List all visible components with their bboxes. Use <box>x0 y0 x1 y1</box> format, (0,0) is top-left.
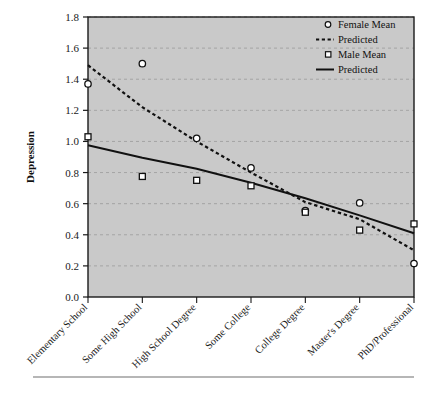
open-circle-marker <box>325 22 331 28</box>
female-mean-point <box>139 60 145 66</box>
x-tick-label: Master's Degree <box>305 301 361 357</box>
legend-label: Predicted <box>338 64 378 75</box>
y-axis-title: Depression <box>24 131 36 183</box>
depression-by-education-chart: 0.00.20.40.60.81.01.21.41.61.8 Depressio… <box>0 0 434 394</box>
legend-label: Male Mean <box>338 49 387 60</box>
male-mean-point <box>302 209 308 215</box>
y-tick-label: 0.8 <box>65 167 79 179</box>
female-mean-point <box>85 81 91 87</box>
female-mean-point <box>356 200 362 206</box>
y-tick-label: 1.6 <box>65 42 79 54</box>
x-tick-label: Some High School <box>80 302 144 366</box>
female-mean-point <box>248 165 254 171</box>
male-mean-point <box>194 177 200 183</box>
female-mean-point <box>193 135 199 141</box>
y-tick-label: 0.4 <box>65 229 79 241</box>
x-tick-label: College Degree <box>253 301 307 355</box>
x-tick-label: PhD/Professional <box>356 302 416 362</box>
y-axis-ticks: 0.00.20.40.60.81.01.21.41.61.8 <box>65 11 88 303</box>
y-tick-label: 1.8 <box>65 11 79 23</box>
female-mean-point <box>411 260 417 266</box>
male-mean-point <box>85 134 91 140</box>
y-tick-label: 0.2 <box>65 260 79 272</box>
legend-label: Predicted <box>338 34 378 45</box>
x-axis-ticks <box>88 297 414 303</box>
open-square-marker <box>326 52 331 57</box>
y-tick-label: 0.0 <box>65 291 79 303</box>
male-mean-point <box>248 183 254 189</box>
y-tick-label: 1.4 <box>65 73 79 85</box>
male-mean-point <box>411 221 417 227</box>
x-axis-labels: Elementary SchoolSome High SchoolHigh Sc… <box>25 301 416 370</box>
legend-label: Female Mean <box>338 19 396 30</box>
y-tick-label: 0.6 <box>65 198 79 210</box>
y-tick-label: 1.2 <box>65 104 79 116</box>
y-tick-label: 1.0 <box>65 135 79 147</box>
male-mean-point <box>139 173 145 179</box>
male-mean-point <box>357 227 363 233</box>
x-tick-label: Some College <box>203 301 253 351</box>
figure-container: 0.00.20.40.60.81.01.21.41.61.8 Depressio… <box>0 0 434 394</box>
